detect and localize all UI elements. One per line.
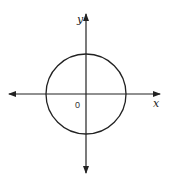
y-axis-label: y: [76, 13, 84, 26]
origin-label: 0: [75, 100, 80, 110]
x-axis-label: x: [153, 97, 160, 110]
coordinate-diagram: y x 0: [0, 0, 172, 183]
